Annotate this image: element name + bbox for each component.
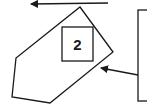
right-rectangle [138, 10, 147, 101]
pointer-arrow [101, 68, 138, 75]
box-label: 2 [73, 36, 81, 53]
diagram-canvas: 2 [0, 0, 147, 108]
top-arrow [31, 3, 108, 4]
